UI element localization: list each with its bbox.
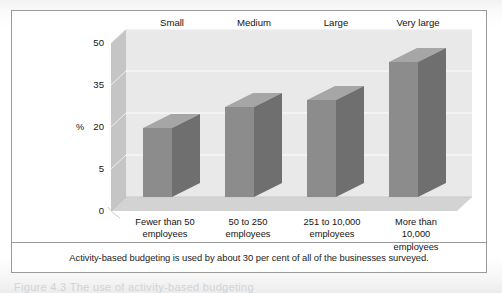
cat-label-1-line-1: Fewer than 50 [135,217,194,227]
y-axis-ticks: 50 35 20 5 0 [93,37,104,216]
figure-caption-bar: Activity-based budgeting is used by abou… [12,242,486,272]
cat-label-4-line-2: 10,000 [402,229,430,239]
bar-very-large-front [389,62,418,197]
chart-area: 50 35 20 5 0 % [12,11,486,243]
bar-large-side [336,86,364,197]
figure-caption: Activity-based budgeting is used by abou… [69,252,428,263]
series-label-small: Small [160,17,184,28]
y-tick-20: 20 [93,121,104,132]
bar-chart-svg: 50 35 20 5 0 % [12,11,486,243]
bar-very-large-side [418,48,446,197]
series-label-very-large: Very large [396,17,439,28]
cat-label-2-line-2: employees [226,229,271,239]
cat-label-1-line-2: employees [143,229,188,239]
bar-small-side [172,114,200,197]
y-tick-50: 50 [93,37,104,48]
cat-label-3-line-2: employees [310,229,355,239]
plot-floor [111,197,472,211]
bar-group-large[interactable] [307,86,364,197]
bar-medium-side [254,93,282,197]
bar-group-very-large[interactable] [389,48,446,197]
series-top-labels: Small Medium Large Very large [160,17,440,28]
cat-label-3-line-1: 251 to 10,000 [304,217,361,227]
y-tick-5: 5 [99,163,104,174]
cat-label-2-line-1: 50 to 250 [229,217,268,227]
bar-small-front [143,128,172,197]
bar-group-small[interactable] [143,114,200,197]
bar-large-front [307,100,336,197]
y-tick-0: 0 [99,205,104,216]
cut-off-figure-title: Figure 4.3 The use of activity-based bud… [14,281,314,293]
series-label-medium: Medium [237,17,271,28]
series-label-large: Large [324,17,349,28]
figure-frame: 50 35 20 5 0 % [11,10,487,273]
bar-group-medium[interactable] [225,93,282,197]
bar-medium-front [225,107,254,197]
y-axis-title: % [76,122,84,132]
cat-label-4-line-1: More than [395,217,437,227]
x-axis-category-labels: Fewer than 50 employees 50 to 250 employ… [135,217,437,239]
y-tick-35: 35 [93,79,104,90]
